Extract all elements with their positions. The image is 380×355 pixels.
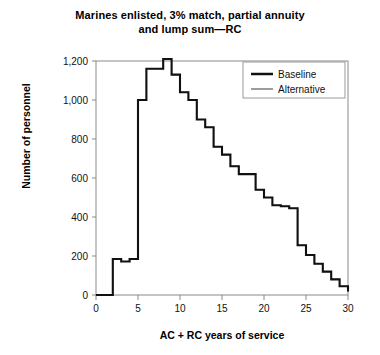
y-tick-label: 400 bbox=[71, 212, 88, 223]
x-tick-label: 20 bbox=[258, 303, 270, 314]
y-tick-label: 1,200 bbox=[63, 56, 88, 67]
y-tick-label: 600 bbox=[71, 173, 88, 184]
y-tick-label: 1,000 bbox=[63, 95, 88, 106]
legend-label-baseline: Baseline bbox=[278, 69, 317, 80]
y-tick-label: 200 bbox=[71, 251, 88, 262]
x-tick-label: 0 bbox=[93, 303, 99, 314]
x-tick-label: 30 bbox=[342, 303, 354, 314]
x-tick-label: 10 bbox=[174, 303, 186, 314]
x-tick-label: 25 bbox=[300, 303, 312, 314]
chart-figure: Marines enlisted, 3% match, partial annu… bbox=[0, 0, 380, 355]
x-tick-label: 5 bbox=[135, 303, 141, 314]
plot-area: 02004006008001,0001,200051015202530Basel… bbox=[0, 0, 380, 355]
x-tick-label: 15 bbox=[216, 303, 228, 314]
legend-label-alternative: Alternative bbox=[278, 84, 326, 95]
y-tick-label: 0 bbox=[82, 290, 88, 301]
y-tick-label: 800 bbox=[71, 134, 88, 145]
